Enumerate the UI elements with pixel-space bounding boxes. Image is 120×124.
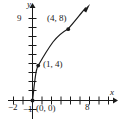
x-axis-arrowhead — [113, 98, 118, 104]
y-tick-label-9: 9 — [17, 14, 22, 23]
y-axis-label: y — [27, 0, 31, 9]
x-tick-label-8: 8 — [85, 103, 90, 112]
x-tick-label-negative-2: −2 — [8, 103, 18, 112]
point-marker-1-4 — [36, 64, 40, 68]
graph-figure: y x 9 8 −2 −1 (0, 0) (1, 4) (4, 8) — [0, 0, 120, 124]
point-marker-4-8 — [66, 27, 70, 31]
point-marker-origin — [31, 99, 35, 103]
point-label-4-8: (4, 8) — [47, 14, 67, 23]
x-tick-label-negative-1: −1 — [23, 105, 33, 114]
point-label-origin: (0, 0) — [36, 104, 56, 113]
point-label-1-4: (1, 4) — [43, 60, 63, 69]
x-axis-label: x — [110, 88, 114, 97]
curve-arrowhead — [83, 4, 90, 13]
